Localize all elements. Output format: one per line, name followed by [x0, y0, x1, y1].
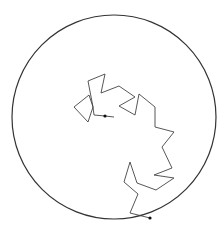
start-marker-icon	[103, 114, 106, 117]
random-walk-diagram	[0, 0, 224, 237]
diagram-canvas	[0, 0, 224, 237]
end-marker-icon	[148, 216, 151, 219]
walk-path	[74, 74, 174, 218]
